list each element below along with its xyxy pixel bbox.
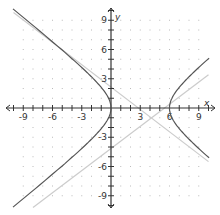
grid-dot bbox=[72, 127, 73, 128]
grid-dot bbox=[150, 49, 151, 50]
grid-dot bbox=[91, 78, 92, 79]
grid-dot bbox=[52, 98, 53, 99]
grid-dot bbox=[23, 137, 24, 138]
grid-dot bbox=[23, 49, 24, 50]
grid-dot bbox=[120, 39, 121, 40]
grid-dot bbox=[159, 166, 160, 167]
grid-dot bbox=[150, 147, 151, 148]
grid-dot bbox=[23, 186, 24, 187]
grid-dot bbox=[189, 195, 190, 196]
grid-dot bbox=[140, 59, 141, 60]
grid-dot bbox=[81, 30, 82, 31]
grid-dot bbox=[81, 20, 82, 21]
grid-dot bbox=[72, 78, 73, 79]
grid-dot bbox=[62, 117, 63, 118]
x-tick-label: -3 bbox=[77, 112, 86, 122]
grid-dot bbox=[159, 30, 160, 31]
grid-dot bbox=[91, 137, 92, 138]
grid-dot bbox=[101, 30, 102, 31]
grid-dot bbox=[52, 166, 53, 167]
grid-dot bbox=[62, 127, 63, 128]
grid-dot bbox=[198, 88, 199, 89]
grid-dot bbox=[198, 137, 199, 138]
grid-dot bbox=[33, 88, 34, 89]
y-tick-label: 3 bbox=[101, 74, 107, 84]
grid-dot bbox=[150, 69, 151, 70]
grid-dot bbox=[150, 166, 151, 167]
grid-dot bbox=[72, 88, 73, 89]
grid-dot bbox=[140, 195, 141, 196]
grid-dot bbox=[33, 78, 34, 79]
grid-dot bbox=[120, 69, 121, 70]
grid-dot bbox=[81, 195, 82, 196]
grid-dot bbox=[169, 39, 170, 40]
grid-dot bbox=[189, 69, 190, 70]
grid-dot bbox=[159, 88, 160, 89]
grid-dot bbox=[130, 137, 131, 138]
grid-dot bbox=[91, 127, 92, 128]
grid-dot bbox=[101, 176, 102, 177]
grid-dot bbox=[23, 88, 24, 89]
grid-dot bbox=[169, 49, 170, 50]
grid-dot bbox=[33, 137, 34, 138]
grid-dot bbox=[62, 98, 63, 99]
grid-dot bbox=[72, 39, 73, 40]
grid-dot bbox=[130, 98, 131, 99]
grid-dot bbox=[72, 49, 73, 50]
grid-dot bbox=[81, 39, 82, 40]
grid-dot bbox=[159, 156, 160, 157]
grid-dot bbox=[140, 39, 141, 40]
grid-dot bbox=[150, 78, 151, 79]
grid-dot bbox=[140, 78, 141, 79]
grid-dot bbox=[101, 69, 102, 70]
grid-dot bbox=[159, 69, 160, 70]
grid-dot bbox=[179, 186, 180, 187]
grid-dot bbox=[91, 147, 92, 148]
grid-dot bbox=[130, 39, 131, 40]
grid-dot bbox=[72, 166, 73, 167]
grid-dot bbox=[130, 127, 131, 128]
grid-dot bbox=[91, 117, 92, 118]
grid-dot bbox=[23, 69, 24, 70]
grid-dot bbox=[72, 137, 73, 138]
grid-dot bbox=[33, 156, 34, 157]
grid-dot bbox=[198, 156, 199, 157]
grid-dot bbox=[62, 39, 63, 40]
grid-dot bbox=[52, 88, 53, 89]
grid-dot bbox=[120, 98, 121, 99]
grid-dot bbox=[189, 49, 190, 50]
grid-dot bbox=[120, 117, 121, 118]
grid-dot bbox=[42, 88, 43, 89]
grid-dot bbox=[120, 176, 121, 177]
grid-dot bbox=[101, 186, 102, 187]
grid-dot bbox=[72, 117, 73, 118]
grid-dot bbox=[140, 30, 141, 31]
grid-dot bbox=[81, 98, 82, 99]
grid-dot bbox=[169, 156, 170, 157]
grid-dot bbox=[33, 49, 34, 50]
grid-dot bbox=[81, 127, 82, 128]
grid-dot bbox=[198, 186, 199, 187]
grid-dot bbox=[189, 186, 190, 187]
grid-dot bbox=[179, 117, 180, 118]
grid-dot bbox=[150, 195, 151, 196]
grid-dot bbox=[101, 59, 102, 60]
grid-dot bbox=[198, 78, 199, 79]
grid-dot bbox=[169, 127, 170, 128]
grid-dot bbox=[130, 166, 131, 167]
grid-dot bbox=[101, 98, 102, 99]
grid-dot bbox=[198, 98, 199, 99]
grid-dot bbox=[52, 147, 53, 148]
grid-dot bbox=[150, 39, 151, 40]
grid-dot bbox=[52, 49, 53, 50]
grid-dot bbox=[72, 195, 73, 196]
grid-dot bbox=[130, 69, 131, 70]
grid-dot bbox=[198, 39, 199, 40]
x-tick-label: -9 bbox=[19, 112, 28, 122]
grid-dot bbox=[91, 156, 92, 157]
grid-dot bbox=[120, 49, 121, 50]
grid-dot bbox=[23, 195, 24, 196]
grid-dot bbox=[198, 49, 199, 50]
grid-dot bbox=[189, 30, 190, 31]
grid-dot bbox=[62, 59, 63, 60]
